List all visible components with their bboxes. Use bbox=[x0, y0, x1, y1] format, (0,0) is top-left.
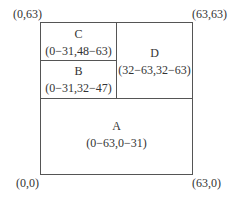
corner-label-bottom-left: (0,0) bbox=[16, 176, 39, 191]
region-d-range: (32−63,32−63) bbox=[117, 62, 192, 79]
region-d-name: D bbox=[117, 45, 192, 62]
corner-label-top-right: (63,63) bbox=[192, 7, 227, 22]
region-c-range: (0−31,48−63) bbox=[41, 43, 116, 60]
region-a-name: A bbox=[41, 118, 192, 135]
region-d: D (32−63,32−63) bbox=[116, 22, 193, 99]
corner-label-top-left: (0,63) bbox=[13, 7, 42, 22]
region-b-name: B bbox=[41, 63, 116, 80]
region-a: A (0−63,0−31) bbox=[40, 98, 193, 175]
region-c-name: C bbox=[41, 26, 116, 43]
region-a-range: (0−63,0−31) bbox=[41, 135, 192, 152]
region-c: C (0−31,48−63) bbox=[40, 22, 117, 61]
corner-label-bottom-right: (63,0) bbox=[192, 176, 221, 191]
region-b: B (0−31,32−47) bbox=[40, 60, 117, 99]
region-b-range: (0−31,32−47) bbox=[41, 80, 116, 97]
